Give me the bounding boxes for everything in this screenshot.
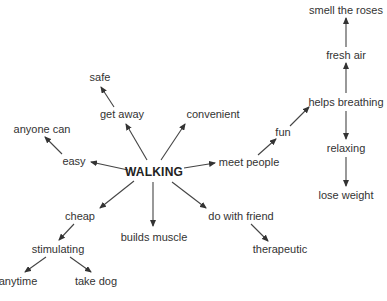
arrow-connector	[290, 107, 309, 126]
node-stimulating: stimulating	[32, 244, 85, 255]
node-do-with-friend: do with friend	[208, 211, 273, 222]
arrow-connector	[172, 182, 206, 208]
node-meet-people: meet people	[219, 157, 280, 168]
arrow-connector	[161, 124, 185, 160]
arrow-connector	[126, 124, 147, 160]
arrow-connector	[101, 87, 114, 107]
node-easy: easy	[62, 156, 85, 167]
node-fun: fun	[275, 127, 290, 138]
arrow-connector	[100, 181, 134, 208]
node-safe: safe	[90, 72, 111, 83]
arrow-connector	[45, 137, 62, 154]
arrow-connector	[25, 257, 46, 272]
node-helps-breathing: helps breathing	[308, 97, 383, 108]
arrow-connector	[91, 162, 128, 170]
arrow-connector	[59, 224, 74, 240]
node-convenient: convenient	[186, 109, 239, 120]
node-anyone-can: anyone can	[14, 124, 71, 135]
mind-map-canvas: WALKINGsafeget awayconvenientanyone cane…	[0, 0, 387, 301]
node-builds-muscle: builds muscle	[121, 232, 188, 243]
central-node: WALKING	[125, 166, 183, 178]
node-cheap: cheap	[65, 211, 95, 222]
node-anytime: anytime	[0, 276, 37, 287]
node-fresh-air: fresh air	[326, 50, 366, 61]
arrow-connector	[251, 224, 268, 241]
node-lose-weight: lose weight	[318, 190, 373, 201]
node-relaxing: relaxing	[327, 143, 366, 154]
node-get-away: get away	[100, 109, 144, 120]
node-take-dog: take dog	[75, 276, 117, 287]
node-therapeutic: therapeutic	[253, 244, 307, 255]
node-smell-the-roses: smell the roses	[309, 5, 383, 16]
arrow-connector	[70, 257, 91, 272]
arrow-connector	[258, 139, 276, 155]
arrow-connector	[184, 163, 215, 168]
